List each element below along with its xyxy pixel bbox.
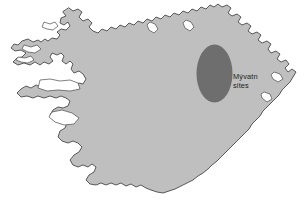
myvatn-sites-oval	[197, 45, 233, 103]
myvatn-sites-label-line2: sites	[233, 81, 249, 90]
map-canvas: Mývatn sites	[0, 0, 306, 211]
iceland-map-figure: Mývatn sites	[0, 0, 306, 211]
myvatn-sites-label-line1: Mývatn	[233, 72, 258, 81]
